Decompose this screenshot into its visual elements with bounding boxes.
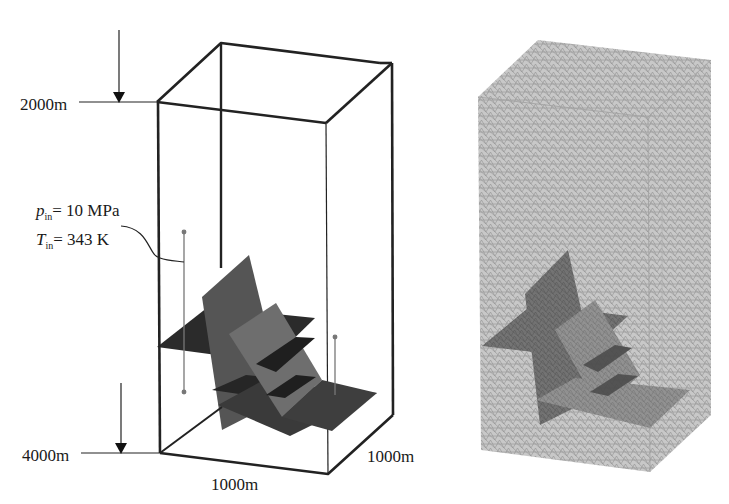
depth-top-label: 2000m xyxy=(20,95,67,114)
arrow-down-icon xyxy=(113,92,125,103)
injection-annotation: pin= 10 MPa Tin= 343 K xyxy=(35,201,184,262)
arrow-down-icon xyxy=(115,443,127,454)
depth-bottom-label: 4000m xyxy=(22,446,69,465)
depth-marker-top: 2000m xyxy=(20,30,157,114)
depth-marker-bottom: 4000m xyxy=(22,383,160,465)
mesh-model xyxy=(478,40,711,472)
width-label: 1000m xyxy=(211,475,258,494)
pressure-label: pin= 10 MPa xyxy=(35,201,120,222)
figure-canvas: 2000m 4000m 1000m 1000m pin= 10 MPa Tin=… xyxy=(0,0,729,504)
temperature-label: Tin= 343 K xyxy=(36,230,110,251)
length-label: 1000m xyxy=(367,447,414,466)
fracture-network xyxy=(157,255,377,436)
geometric-model: 2000m 4000m 1000m 1000m pin= 10 MPa Tin=… xyxy=(20,30,414,494)
leader-line xyxy=(121,226,184,262)
